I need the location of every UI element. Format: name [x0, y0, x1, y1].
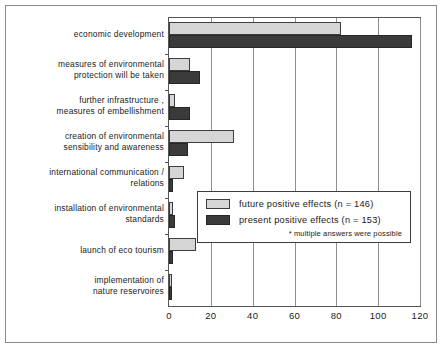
bar-present-0 — [169, 35, 412, 48]
legend-label-future: future positive effects (n = 146) — [239, 199, 373, 209]
category-label-nature-reservoires: implementation of nature reservoires — [6, 275, 164, 297]
bar-future-4 — [169, 166, 184, 179]
category-label-international-communication: international communication / relations — [6, 167, 164, 189]
x-tick-label-20: 20 — [205, 310, 216, 321]
plot-area — [168, 17, 421, 307]
legend-swatch-future-icon — [206, 199, 230, 209]
legend-item-future: future positive effects (n = 146) — [206, 197, 373, 211]
bar-future-5 — [169, 202, 173, 215]
gridline-40 — [253, 18, 254, 306]
bar-future-2 — [169, 94, 175, 107]
bar-future-0 — [169, 22, 341, 35]
category-label-eco-tourism: launch of eco tourism — [6, 245, 164, 256]
legend-label-present: present positive effects (n = 153) — [239, 215, 381, 225]
category-label-further-infrastructure: further infrastructure , measures of emb… — [6, 95, 164, 117]
y-axis-tick-5 — [165, 198, 169, 199]
x-tick-label-0: 0 — [166, 310, 172, 321]
bar-future-1 — [169, 58, 190, 71]
category-label-economic-development: economic development — [6, 29, 164, 40]
legend-swatch-present-icon — [206, 215, 230, 225]
gridline-100 — [378, 18, 379, 306]
y-axis-tick-2 — [165, 90, 169, 91]
y-axis-tick-6 — [165, 234, 169, 235]
y-axis-tick-7 — [165, 270, 169, 271]
bar-present-5 — [169, 215, 175, 228]
x-tick-label-80: 80 — [331, 310, 342, 321]
category-label-environmental-sensibility: creation of environmental sensibility an… — [6, 131, 164, 153]
y-axis-tick-1 — [165, 54, 169, 55]
x-axis-tick-labels: 020406080100120 — [168, 310, 421, 326]
x-tick-label-40: 40 — [247, 310, 258, 321]
chart-legend: future positive effects (n = 146) presen… — [197, 191, 411, 243]
y-axis-tick-3 — [165, 126, 169, 127]
bar-present-6 — [169, 251, 173, 264]
legend-footnote: * multiple answers were possible — [289, 229, 402, 238]
bar-future-3 — [169, 130, 234, 143]
chart-figure: economic development measures of environ… — [5, 5, 437, 343]
category-label-environmental-standards: installation of environmental standards — [6, 203, 164, 225]
gridline-60 — [295, 18, 296, 306]
gridline-20 — [211, 18, 212, 306]
x-tick-label-120: 120 — [412, 310, 429, 321]
bar-present-7 — [169, 287, 172, 300]
bar-present-4 — [169, 179, 173, 192]
x-tick-label-100: 100 — [370, 310, 387, 321]
bar-future-7 — [169, 274, 172, 287]
legend-item-present: present positive effects (n = 153) — [206, 213, 381, 227]
x-tick-label-60: 60 — [289, 310, 300, 321]
category-labels: economic development measures of environ… — [6, 17, 164, 307]
bar-present-3 — [169, 143, 188, 156]
y-axis-tick-4 — [165, 162, 169, 163]
bar-present-2 — [169, 107, 190, 120]
category-label-environmental-protection: measures of environmental protection wil… — [6, 59, 164, 81]
bar-present-1 — [169, 71, 200, 84]
bar-future-6 — [169, 238, 196, 251]
gridline-120 — [420, 18, 421, 306]
gridline-80 — [336, 18, 337, 306]
